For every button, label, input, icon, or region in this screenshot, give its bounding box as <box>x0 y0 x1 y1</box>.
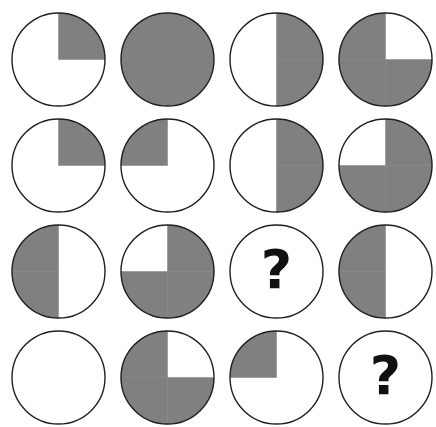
circle-r2c2-graphic <box>119 117 216 214</box>
circle-r2c1-graphic <box>10 117 107 214</box>
circle-r2c2 <box>113 112 222 218</box>
circle-outline <box>339 331 432 424</box>
circle-r2c4-graphic <box>337 117 434 214</box>
circle-r2c4 <box>331 112 436 218</box>
circle-r3c2-graphic <box>119 223 216 320</box>
circle-r1c1 <box>4 6 113 112</box>
circle-r4c3-graphic <box>228 329 325 426</box>
circle-outline <box>230 225 323 318</box>
circle-r3c4-graphic <box>337 223 434 320</box>
circle-r3c3-graphic <box>228 223 325 320</box>
circle-r1c3-graphic <box>228 11 325 108</box>
circle-r1c4 <box>331 6 436 112</box>
circle-r4c2-graphic <box>119 329 216 426</box>
circle-r2c3-graphic <box>228 117 325 214</box>
circle-r4c1-graphic <box>10 329 107 426</box>
circle-r3c4 <box>331 218 436 324</box>
circle-r3c1-graphic <box>10 223 107 320</box>
circle-r4c1 <box>4 324 113 427</box>
circle-r4c3 <box>222 324 331 427</box>
circle-r3c1 <box>4 218 113 324</box>
circle-r4c4: ? <box>331 324 436 427</box>
circle-r1c4-graphic <box>337 11 434 108</box>
circle-r3c2 <box>113 218 222 324</box>
circle-outline <box>12 331 105 424</box>
circle-r4c4-graphic <box>337 329 434 426</box>
circle-r1c2-graphic <box>119 11 216 108</box>
circle-r1c1-graphic <box>10 11 107 108</box>
circle-r1c2 <box>113 6 222 112</box>
puzzle-grid: ?? <box>0 0 436 427</box>
circle-r2c3 <box>222 112 331 218</box>
circle-r4c2 <box>113 324 222 427</box>
circle-r2c1 <box>4 112 113 218</box>
circle-r3c3: ? <box>222 218 331 324</box>
circle-r1c3 <box>222 6 331 112</box>
